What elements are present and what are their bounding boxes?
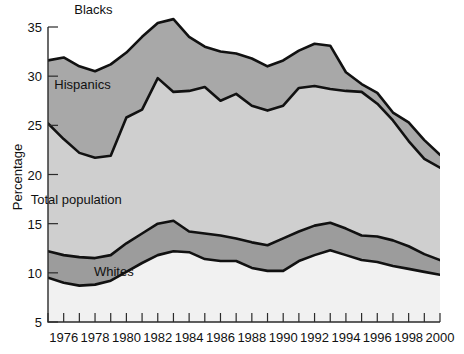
poverty-rate-area-chart: 5101520253035 19761978198019821984198619…	[0, 0, 464, 354]
chart-canvas: 5101520253035 19761978198019821984198619…	[0, 0, 464, 354]
x-tick-label-2000: 2000	[426, 330, 455, 345]
series-label-blacks: Blacks	[74, 2, 113, 17]
y-tick-label-10: 10	[28, 266, 42, 281]
y-tick-label-20: 20	[28, 168, 42, 183]
y-tick-label-35: 35	[28, 20, 42, 35]
x-tick-label-1996: 1996	[363, 330, 392, 345]
x-tick-label-1994: 1994	[331, 330, 360, 345]
series-label-hispanics: Hispanics	[54, 77, 111, 92]
x-tick-label-1976: 1976	[49, 330, 78, 345]
x-tick-label-1988: 1988	[237, 330, 266, 345]
y-tick-label-15: 15	[28, 217, 42, 232]
y-tick-label-25: 25	[28, 118, 42, 133]
x-tick-label-1984: 1984	[175, 330, 204, 345]
x-tick-label-1986: 1986	[206, 330, 235, 345]
x-tick-label-1990: 1990	[269, 330, 298, 345]
y-tick-label-30: 30	[28, 69, 42, 84]
series-label-whites: Whites	[94, 264, 134, 279]
y-tick-label-5: 5	[35, 315, 42, 330]
x-tick-label-1982: 1982	[143, 330, 172, 345]
x-tick-label-1992: 1992	[300, 330, 329, 345]
y-axis-title: Percentage	[10, 144, 25, 211]
x-tick-label-1998: 1998	[394, 330, 423, 345]
series-label-total-population: Total population	[31, 192, 122, 207]
x-tick-label-1980: 1980	[112, 330, 141, 345]
x-tick-label-1978: 1978	[81, 330, 110, 345]
